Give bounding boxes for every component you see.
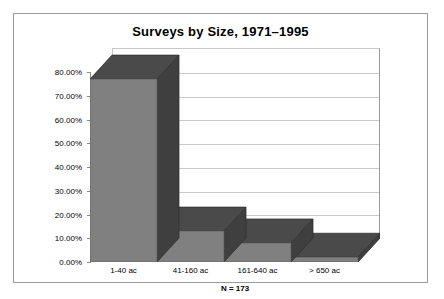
y-axis-label-10: 10.00% bbox=[55, 234, 82, 243]
chart-container: Surveys by Size, 1971–1995 80.00% 70.00% bbox=[13, 13, 428, 283]
chart-title: Surveys by Size, 1971–1995 bbox=[14, 24, 427, 39]
y-axis-label-30: 30.00% bbox=[55, 186, 82, 195]
y-axis-label-0: 0.00% bbox=[59, 258, 82, 267]
y-axis-label-50: 50.00% bbox=[55, 139, 82, 148]
plot-area: 80.00% 70.00% 60.00% 50.00% 40.00% 30.00… bbox=[90, 48, 380, 262]
x-axis-label-1: 1-40 ac bbox=[90, 266, 157, 275]
y-axis-label-40: 40.00% bbox=[55, 163, 82, 172]
y-tick-0: 0.00% bbox=[87, 262, 91, 263]
x-axis-label-3: 161-640 ac bbox=[224, 266, 291, 275]
y-axis-label-80: 80.00% bbox=[55, 68, 82, 77]
y-axis-label-20: 20.00% bbox=[55, 210, 82, 219]
sample-size-note: N = 173 bbox=[90, 284, 380, 293]
bar-column-1[interactable] bbox=[90, 48, 380, 262]
y-axis-label-60: 60.00% bbox=[55, 115, 82, 124]
x-axis-label-2: 41-160 ac bbox=[157, 266, 224, 275]
x-axis-label-4: > 650 ac bbox=[291, 266, 358, 275]
y-axis-label-70: 70.00% bbox=[55, 91, 82, 100]
